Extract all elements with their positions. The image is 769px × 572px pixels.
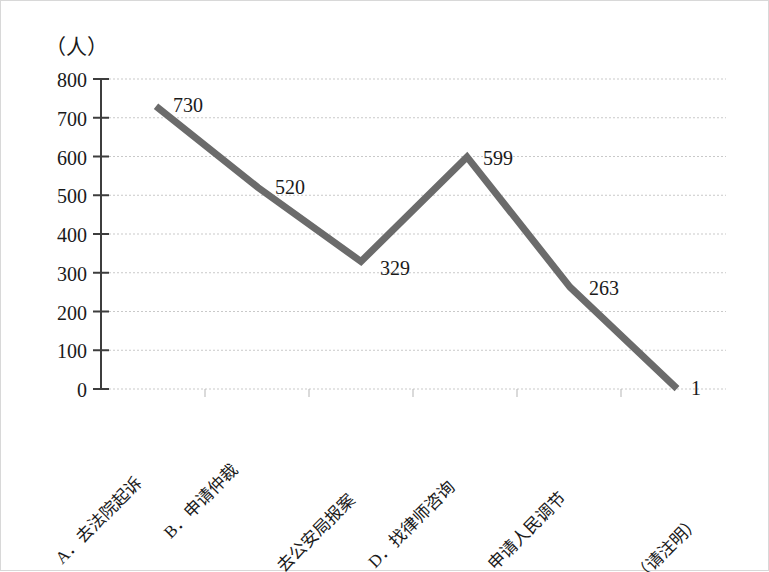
y-tick-label-200: 200: [57, 302, 87, 324]
y-tick-label-100: 100: [57, 340, 87, 362]
x-category-label-a: A．去法院起诉: [52, 473, 146, 567]
data-label-c: 329: [380, 257, 410, 279]
y-tick-label-500: 500: [57, 185, 87, 207]
x-category-label-f: F．其他（请注明）: [588, 512, 704, 572]
x-category-label-d: D．找律师咨询: [365, 477, 459, 571]
x-category-label-b: B．申请仲裁: [160, 460, 242, 542]
y-tick-label-400: 400: [57, 224, 87, 246]
data-label-f: 1: [691, 377, 701, 399]
data-label-e: 263: [589, 277, 619, 299]
y-tick-label-300: 300: [57, 263, 87, 285]
y-tick-label-700: 700: [57, 108, 87, 130]
line-chart-canvas: （人） 800 700 6: [1, 1, 769, 572]
y-tick-label-600: 600: [57, 147, 87, 169]
x-category-label-e: E．申请人民调节: [465, 488, 570, 572]
y-tick-label-800: 800: [57, 69, 87, 91]
y-tick-label-0: 0: [77, 379, 87, 401]
y-axis-unit-label: （人）: [45, 35, 108, 59]
data-label-d: 599: [483, 147, 513, 169]
x-tick-mark-group: [205, 389, 621, 397]
data-label-a: 730: [173, 94, 203, 116]
x-category-label-c: C．去公安局报案: [253, 490, 359, 572]
series-line-respondents: [156, 106, 677, 388]
data-label-b: 520: [275, 176, 305, 198]
